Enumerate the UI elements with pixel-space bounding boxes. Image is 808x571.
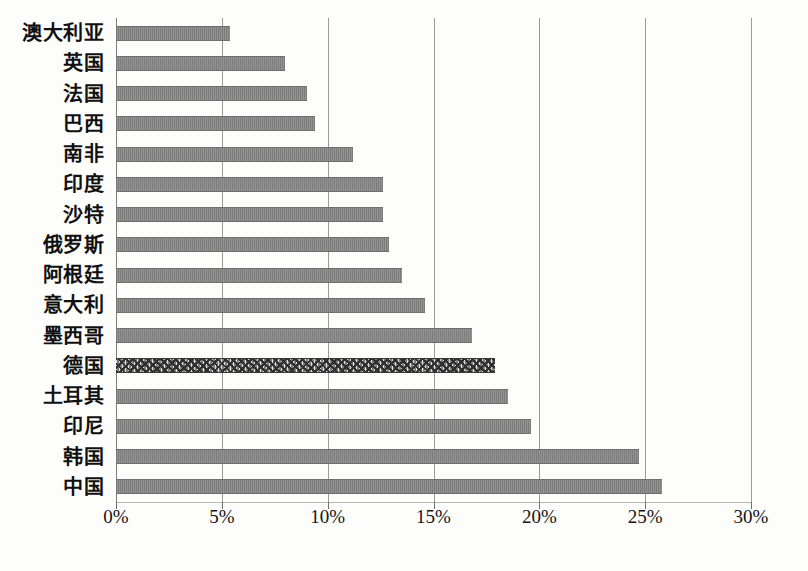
plot-area	[116, 18, 751, 502]
category-label: 英国	[63, 48, 104, 78]
tick-label: 15%	[416, 506, 451, 528]
category-label: 印尼	[63, 411, 104, 441]
tick-label: 30%	[734, 506, 769, 528]
category-label: 印度	[63, 169, 104, 199]
tick-mark-15%	[434, 502, 435, 509]
bar-row	[116, 442, 751, 472]
bar	[116, 207, 383, 222]
gridline-30%	[751, 18, 752, 502]
tick-label: 5%	[209, 506, 234, 528]
bar-row	[116, 18, 751, 48]
bar	[116, 268, 402, 283]
bar	[116, 26, 230, 41]
bar	[116, 389, 508, 404]
category-label: 澳大利亚	[22, 18, 104, 48]
category-label: 意大利	[43, 290, 105, 320]
bar-row	[116, 411, 751, 441]
bar-row	[116, 381, 751, 411]
bar-row	[116, 351, 751, 381]
bar	[116, 177, 383, 192]
tick-mark-20%	[539, 502, 540, 509]
category-label: 土耳其	[43, 381, 105, 411]
bar-chart: 澳大利亚英国法国巴西南非印度沙特俄罗斯阿根廷意大利墨西哥德国土耳其印尼韩国中国 …	[0, 0, 808, 571]
tick-mark-30%	[751, 502, 752, 509]
bar	[116, 56, 285, 71]
category-label: 中国	[63, 472, 104, 502]
category-label: 德国	[63, 351, 104, 381]
bar	[116, 86, 307, 101]
bar-row	[116, 48, 751, 78]
tick-label: 20%	[522, 506, 557, 528]
bar	[116, 449, 639, 464]
bar-row	[116, 169, 751, 199]
tick-mark-5%	[222, 502, 223, 509]
category-label: 沙特	[63, 200, 104, 230]
bar	[116, 147, 353, 162]
bar-row	[116, 290, 751, 320]
bar-row	[116, 109, 751, 139]
tick-label: 0%	[103, 506, 128, 528]
bar-row	[116, 139, 751, 169]
category-label: 墨西哥	[43, 321, 105, 351]
tick-mark-0%	[116, 502, 117, 509]
bar-highlighted	[116, 358, 495, 373]
category-axis: 澳大利亚英国法国巴西南非印度沙特俄罗斯阿根廷意大利墨西哥德国土耳其印尼韩国中国	[0, 18, 110, 502]
value-axis-tick-labels: 0%5%10%15%20%25%30%	[0, 506, 808, 540]
bar	[116, 237, 389, 252]
bar-row	[116, 321, 751, 351]
bar	[116, 479, 662, 494]
bar-row	[116, 230, 751, 260]
tick-mark-25%	[645, 502, 646, 509]
tick-mark-10%	[328, 502, 329, 509]
bar-row	[116, 472, 751, 502]
bar	[116, 419, 531, 434]
tick-label: 25%	[628, 506, 663, 528]
category-label: 阿根廷	[43, 260, 105, 290]
bar-rows	[116, 18, 751, 502]
bar-row	[116, 200, 751, 230]
bar-row	[116, 79, 751, 109]
bar	[116, 116, 315, 131]
category-label: 法国	[63, 79, 104, 109]
category-label: 韩国	[63, 442, 104, 472]
category-label: 巴西	[63, 109, 104, 139]
bar	[116, 298, 425, 313]
bar	[116, 328, 472, 343]
category-label: 南非	[63, 139, 104, 169]
category-label: 俄罗斯	[43, 230, 105, 260]
tick-label: 10%	[310, 506, 345, 528]
bar-row	[116, 260, 751, 290]
